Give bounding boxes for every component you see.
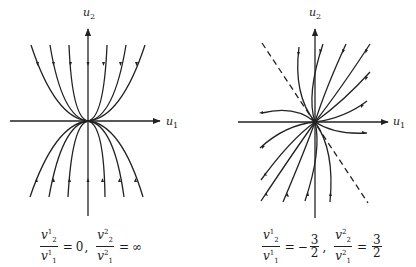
right-u2-label: u2 (309, 6, 321, 21)
left-formula: v12v11 = 0 , v22v21 = ∞ (38, 226, 142, 267)
right-formula: v12v11 = − 32 , v22v21 = 32 (260, 226, 384, 267)
left-phase-portrait (10, 29, 160, 216)
right-u1-label: u1 (393, 115, 405, 130)
left-u2-label: u2 (83, 6, 95, 21)
left-u1-label: u1 (166, 115, 178, 130)
right-phase-portrait (238, 29, 388, 218)
